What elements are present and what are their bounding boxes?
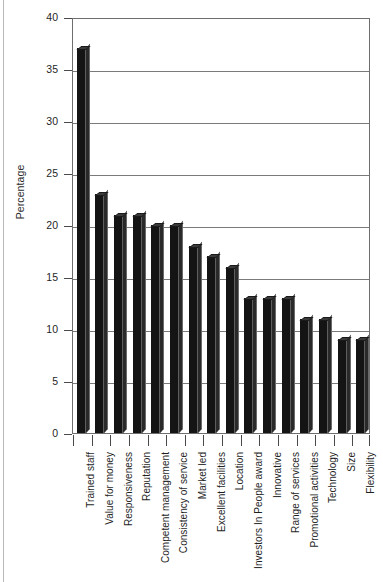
bar-front-face — [356, 339, 365, 433]
x-axis-tick — [166, 435, 167, 446]
bar — [226, 267, 235, 433]
bar-front-face — [95, 194, 104, 433]
bar-side-face — [328, 314, 332, 433]
y-axis-tick — [64, 382, 72, 383]
bar-front-face — [133, 215, 142, 433]
y-axis-tick — [64, 330, 72, 331]
x-axis-label: Technology — [327, 452, 338, 503]
x-axis-tick — [185, 435, 186, 446]
bar-front-face — [114, 215, 123, 433]
bar-front-face — [207, 256, 216, 433]
y-axis-label: 0 — [28, 427, 58, 439]
y-axis-label: 35 — [28, 63, 58, 75]
x-axis-tick — [315, 435, 316, 446]
bar-side-face — [160, 221, 164, 433]
bar — [338, 339, 347, 433]
y-axis-label: 25 — [28, 167, 58, 179]
y-axis-label: 15 — [28, 271, 58, 283]
x-axis-tick — [203, 435, 204, 446]
y-axis-tick — [64, 226, 72, 227]
x-axis-label: Market led — [197, 452, 208, 499]
bar — [244, 298, 253, 433]
y-axis-tick — [64, 18, 72, 19]
y-axis-tick — [64, 434, 72, 435]
x-axis-tick — [259, 435, 260, 446]
x-axis-tick — [369, 435, 370, 446]
bar — [263, 298, 272, 433]
bar-side-face — [309, 314, 313, 433]
bar-side-face — [347, 335, 351, 433]
bar — [319, 319, 328, 433]
x-axis-label: Reputation — [141, 452, 152, 501]
bar-front-face — [263, 298, 272, 433]
y-axis-title: Percentage — [14, 148, 26, 236]
x-axis-label: Range of services — [290, 452, 301, 533]
bar-side-face — [235, 262, 239, 433]
bar-side-face — [104, 190, 108, 434]
bar — [95, 194, 104, 433]
bar-front-face — [151, 225, 160, 433]
y-axis-label: 40 — [28, 11, 58, 23]
x-axis-tick — [241, 435, 242, 446]
x-axis-label: Promotional activities — [309, 452, 320, 548]
bar — [300, 319, 309, 433]
bar-front-face — [77, 48, 86, 433]
bar-side-face — [291, 294, 295, 434]
bar — [356, 339, 365, 433]
x-axis-label: Responsiveness — [123, 452, 134, 526]
bar-side-face — [365, 335, 369, 433]
bar-chart: Percentage 0510152025303540 Trained staf… — [0, 0, 383, 582]
bar-side-face — [142, 210, 146, 433]
x-axis-label: Flexibility — [365, 452, 376, 494]
bar — [282, 298, 291, 433]
bar — [151, 225, 160, 433]
bar-side-face — [253, 294, 257, 434]
x-axis-tick — [297, 435, 298, 446]
x-axis-tick — [352, 435, 353, 446]
y-axis-tick — [64, 174, 72, 175]
bar — [207, 256, 216, 433]
bar-series — [73, 19, 369, 433]
bar-front-face — [189, 246, 198, 433]
bar-front-face — [338, 339, 347, 433]
y-axis-tick — [64, 70, 72, 71]
x-axis-label: Size — [346, 452, 357, 472]
bar-side-face — [216, 252, 220, 433]
x-axis-tick — [110, 435, 111, 446]
bar-front-face — [226, 267, 235, 433]
bar — [114, 215, 123, 433]
x-axis-tick — [334, 435, 335, 446]
y-axis-tick — [64, 278, 72, 279]
y-axis-label: 30 — [28, 115, 58, 127]
bar-side-face — [86, 44, 90, 433]
x-axis-label: Competent management — [160, 452, 171, 563]
y-axis-label: 10 — [28, 323, 58, 335]
bar-front-face — [282, 298, 291, 433]
x-axis-tick — [278, 435, 279, 446]
x-axis-label: Innovative — [272, 452, 283, 498]
bar-side-face — [179, 221, 183, 433]
y-axis-tick — [64, 122, 72, 123]
x-axis-tick — [92, 435, 93, 446]
bar-side-face — [123, 210, 127, 433]
bar-front-face — [170, 225, 179, 433]
x-axis-label: Location — [234, 452, 245, 490]
bar — [189, 246, 198, 433]
bar-side-face — [198, 242, 202, 434]
bar-front-face — [244, 298, 253, 433]
x-axis-tick — [222, 435, 223, 446]
bar-front-face — [319, 319, 328, 433]
x-axis-label: Investors In People award — [253, 452, 264, 569]
x-axis-tick — [129, 435, 130, 446]
x-axis-label: Consistency of service — [178, 452, 189, 553]
x-axis-label: Value for money — [104, 452, 115, 525]
x-axis-tick — [148, 435, 149, 446]
bar — [170, 225, 179, 433]
y-axis-label: 5 — [28, 375, 58, 387]
x-axis-tick — [73, 435, 74, 446]
bar-side-face — [272, 294, 276, 434]
bar-front-face — [300, 319, 309, 433]
y-axis-label: 20 — [28, 219, 58, 231]
bar — [133, 215, 142, 433]
plot-area — [72, 18, 370, 434]
